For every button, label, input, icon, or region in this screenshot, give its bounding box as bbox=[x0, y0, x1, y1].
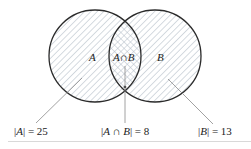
count-ab-suffix: | = 8 bbox=[130, 125, 150, 137]
count-a-label: |A| = 25 bbox=[14, 125, 48, 137]
count-b-label: |B| = 13 bbox=[198, 125, 232, 137]
count-ab-var: A ∩ B bbox=[102, 125, 130, 137]
count-a-suffix: | = 25 bbox=[23, 125, 48, 137]
intersection-label: A∩B bbox=[112, 51, 135, 63]
set-b-label: B bbox=[157, 51, 164, 63]
venn-diagram: A B A∩B |A| = 25 |A ∩ B| = 8 |B| = 13 bbox=[0, 0, 251, 149]
set-a-label: A bbox=[88, 51, 96, 63]
count-b-suffix: | = 13 bbox=[207, 125, 232, 137]
count-intersection-label: |A ∩ B| = 8 bbox=[101, 125, 150, 137]
